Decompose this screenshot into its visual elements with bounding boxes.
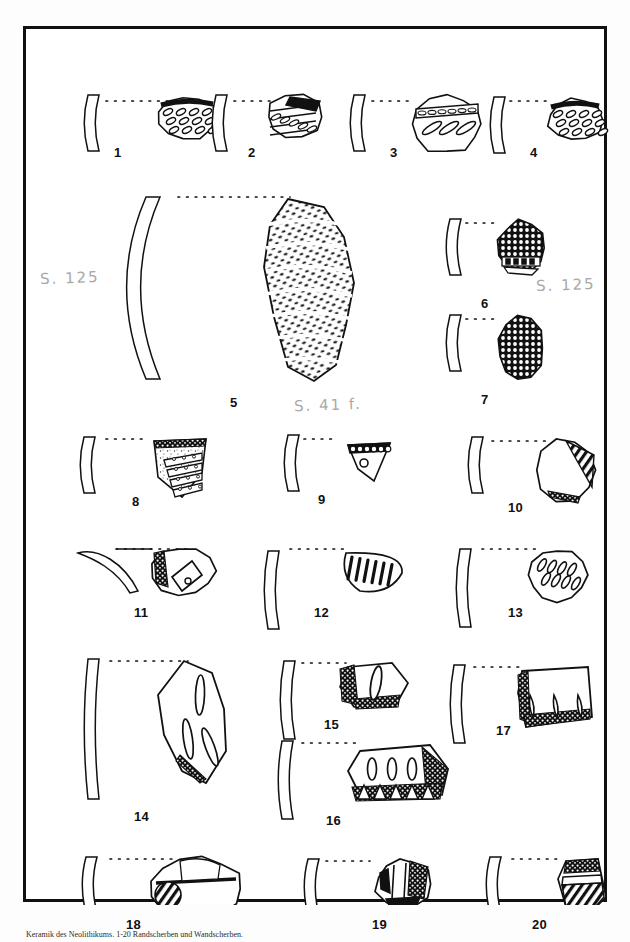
- pottery-plate-drawing: [26, 29, 610, 905]
- boss: [155, 882, 181, 905]
- artifact-14: [84, 659, 226, 799]
- impression: [173, 458, 176, 461]
- profile-section-14: [84, 659, 99, 799]
- profile-section-8: [80, 437, 95, 493]
- profile-section-2: [212, 95, 227, 151]
- artifact-2: [212, 94, 321, 151]
- item-number-17: 17: [496, 723, 511, 738]
- artifact-11: [78, 549, 216, 596]
- artifact-9: [284, 435, 391, 491]
- plate-caption: Keramik des Neolithikums. 1-20 Randscher…: [26, 930, 606, 939]
- impression: [177, 478, 180, 481]
- perforation: [185, 578, 191, 584]
- impression: [514, 259, 518, 264]
- item-number-12: 12: [314, 605, 329, 620]
- impression: [468, 108, 476, 112]
- impression: [458, 109, 466, 113]
- perforation: [360, 459, 368, 467]
- hatched-zone: [562, 883, 604, 905]
- artifact-7: [446, 315, 542, 379]
- item-number-10: 10: [508, 500, 523, 515]
- profile-section-16: [278, 741, 293, 819]
- impression: [506, 259, 510, 264]
- artifact-12: [264, 551, 402, 629]
- sherd-body-7: [498, 315, 542, 379]
- impression: [193, 455, 196, 458]
- impression: [195, 465, 198, 468]
- artifact-4: [490, 97, 608, 153]
- profile-section-18: [82, 857, 97, 905]
- item-number-13: 13: [508, 605, 523, 620]
- artifact-20: [486, 857, 606, 905]
- impression: [175, 468, 178, 471]
- profile-section-4: [490, 97, 505, 153]
- artifact-6: [446, 219, 544, 275]
- dark-edge: [380, 869, 390, 893]
- impression: [199, 485, 202, 488]
- rough-rim: [564, 859, 600, 873]
- artifact-1: [84, 95, 218, 151]
- artifact-18: [82, 856, 240, 905]
- artifact-16: [278, 741, 448, 819]
- artifact-5: [127, 197, 355, 381]
- item-number-5: 5: [230, 395, 237, 410]
- impression: [371, 446, 377, 452]
- item-number-11: 11: [134, 605, 148, 620]
- profile-section-6: [446, 219, 461, 275]
- impression: [179, 488, 182, 491]
- impression: [364, 446, 370, 452]
- note-left: S. 125: [40, 268, 100, 288]
- artifact-15: [280, 661, 408, 739]
- item-number-8: 8: [132, 494, 139, 509]
- plate-frame: 1234567891011121314151617181920 S. 125S.…: [23, 26, 607, 902]
- artifact-group: [78, 94, 609, 905]
- item-number-1: 1: [114, 145, 121, 160]
- profile-section-12: [264, 551, 279, 629]
- item-number-3: 3: [390, 145, 397, 160]
- impression: [418, 111, 426, 115]
- artifact-19: [304, 859, 430, 905]
- impression: [183, 456, 186, 459]
- profile-section-3: [350, 95, 365, 151]
- impression: [189, 486, 192, 489]
- impression: [530, 259, 534, 264]
- profile-section-1: [84, 95, 99, 151]
- item-number-4: 4: [530, 145, 537, 160]
- artifact-17: [450, 665, 592, 743]
- impression: [187, 476, 190, 479]
- upper-facet: [180, 859, 220, 881]
- note-right: S. 125: [536, 275, 596, 295]
- rough-rim: [154, 439, 206, 448]
- item-number-7: 7: [481, 392, 488, 407]
- lower-edge: [504, 267, 538, 275]
- profile-section-15: [280, 661, 295, 739]
- impression: [438, 110, 446, 114]
- item-number-16: 16: [326, 813, 341, 828]
- impression: [522, 259, 526, 264]
- item-number-15: 15: [324, 717, 339, 732]
- impression: [428, 110, 436, 114]
- profile-section-9: [284, 435, 299, 491]
- dark-edge: [386, 897, 420, 905]
- impression: [357, 446, 363, 452]
- profile-section-11: [78, 552, 138, 593]
- impression: [185, 466, 188, 469]
- profile-section-7: [446, 315, 461, 371]
- artifact-8: [80, 437, 206, 497]
- note-center: S. 41 f.: [294, 395, 362, 415]
- impression: [388, 758, 397, 780]
- item-number-2: 2: [248, 145, 255, 160]
- impression: [408, 758, 417, 780]
- profile-section-20: [486, 857, 501, 905]
- artifact-3: [350, 95, 481, 152]
- impression: [448, 109, 456, 113]
- rough-edge: [408, 861, 428, 899]
- profile-section-19: [304, 859, 319, 905]
- impression: [385, 446, 391, 452]
- profile-section-13: [456, 549, 471, 627]
- item-number-14: 14: [134, 809, 149, 824]
- impression: [350, 446, 356, 452]
- profile-section-10: [468, 437, 483, 493]
- profile-section-5: [127, 197, 161, 379]
- impression: [197, 475, 200, 478]
